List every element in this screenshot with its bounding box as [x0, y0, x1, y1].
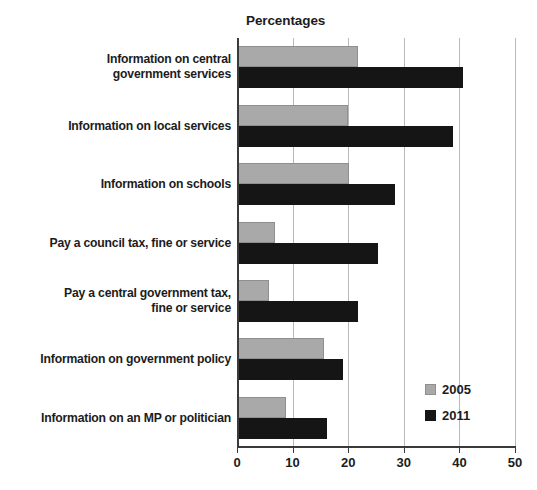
- bar-2011-1: [237, 126, 453, 147]
- gridline: [404, 38, 405, 447]
- bar-2011-3: [237, 243, 378, 264]
- x-tick: [348, 447, 349, 453]
- x-tick: [237, 447, 238, 453]
- category-label-5: Information on government policy: [9, 352, 231, 367]
- category-label-line: Information on local services: [9, 118, 231, 133]
- bar-2005-2: [237, 163, 349, 184]
- chart-title: Percentages: [246, 13, 325, 28]
- category-label-line: fine or service: [9, 301, 231, 316]
- bar-2005-5: [237, 338, 324, 359]
- category-label-line: Information on an MP or politician: [9, 410, 231, 425]
- x-tick: [404, 447, 405, 453]
- category-label-3: Pay a council tax, fine or service: [9, 235, 231, 250]
- bar-2011-6: [237, 418, 327, 439]
- x-tick: [459, 447, 460, 453]
- category-label-6: Information on an MP or politician: [9, 410, 231, 425]
- x-axis-line: [237, 446, 516, 448]
- bar-2005-0: [237, 46, 358, 67]
- bar-2011-2: [237, 184, 395, 205]
- legend-item-2011[interactable]: 2011: [425, 404, 471, 426]
- legend-item-2005[interactable]: 2005: [425, 378, 471, 400]
- legend-label: 2011: [442, 408, 470, 423]
- x-tick-label: 20: [341, 455, 355, 470]
- gridline: [515, 38, 516, 447]
- chart-legend: 20052011: [425, 378, 471, 430]
- black-swatch-icon: [425, 410, 436, 421]
- plot-area: [237, 38, 515, 447]
- x-tick-label: 30: [397, 455, 411, 470]
- bar-chart: Percentages Information on centralgovern…: [0, 0, 537, 490]
- category-label-line: Information on schools: [9, 177, 231, 192]
- category-label-line: Pay a central government tax,: [9, 286, 231, 301]
- x-tick-label: 50: [508, 455, 522, 470]
- category-label-line: Information on central: [9, 52, 231, 67]
- gray-swatch-icon: [425, 384, 436, 395]
- bar-2005-4: [237, 280, 269, 301]
- bar-2011-0: [237, 67, 463, 88]
- category-axis-labels: Information on centralgovernment service…: [0, 0, 231, 490]
- x-tick-label: 10: [285, 455, 299, 470]
- x-tick: [515, 447, 516, 453]
- x-tick: [293, 447, 294, 453]
- bar-2011-4: [237, 301, 358, 322]
- category-label-line: Pay a council tax, fine or service: [9, 235, 231, 250]
- category-label-2: Information on schools: [9, 177, 231, 192]
- bar-2005-3: [237, 222, 275, 243]
- bar-2011-5: [237, 359, 343, 380]
- category-label-4: Pay a central government tax,fine or ser…: [9, 286, 231, 316]
- category-label-line: Information on government policy: [9, 352, 231, 367]
- y-axis-line: [237, 38, 239, 448]
- category-label-1: Information on local services: [9, 118, 231, 133]
- x-tick-label: 0: [233, 455, 240, 470]
- bar-2005-1: [237, 105, 348, 126]
- bar-2005-6: [237, 397, 286, 418]
- legend-label: 2005: [442, 382, 471, 397]
- category-label-line: government services: [9, 67, 231, 82]
- category-label-0: Information on centralgovernment service…: [9, 52, 231, 82]
- x-tick-label: 40: [452, 455, 466, 470]
